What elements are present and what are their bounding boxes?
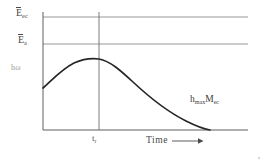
plot-svg <box>0 0 263 162</box>
x-tick-label-tr: tr <box>92 134 96 143</box>
reference-label-upper: Eec <box>16 8 28 18</box>
time-arrow-head <box>198 138 204 144</box>
reference-label-upper-subscript: ec <box>22 12 28 19</box>
curve-annotation-max: max <box>195 99 205 105</box>
y-axis-label: hω <box>11 64 21 72</box>
scan-corner-mark <box>258 157 260 159</box>
reference-label-lower: Ea <box>18 35 27 45</box>
curve-annotation-m: M <box>205 94 213 104</box>
curve-annotation-ec: ec <box>214 99 219 105</box>
figure-container: Eec Ea hω tr Time hmaxMec <box>0 0 263 162</box>
data-curve <box>43 59 210 130</box>
reference-label-lower-subscript: a <box>24 39 27 46</box>
curve-annotation: hmaxMec <box>190 95 219 105</box>
x-axis-title: Time <box>146 136 168 146</box>
